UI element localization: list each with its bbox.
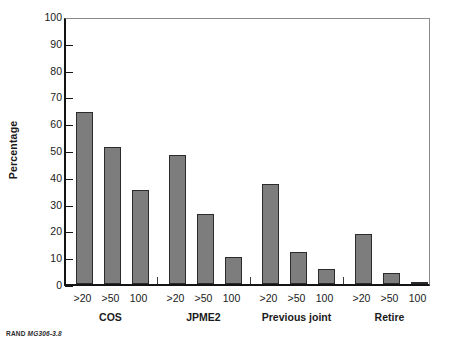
bar-retire-100 bbox=[411, 282, 428, 284]
y-axis-title: Percentage bbox=[2, 0, 24, 300]
y-axis-tick-mark bbox=[65, 72, 73, 73]
group-label-retire: Retire bbox=[330, 311, 450, 323]
x-axis-tick-label: 100 bbox=[395, 292, 441, 304]
y-axis-tick-label: 10 bbox=[50, 252, 64, 264]
y-axis-tick-mark bbox=[65, 232, 73, 233]
bar-previous-joint-gt20 bbox=[262, 184, 279, 285]
bar-cos-100 bbox=[132, 190, 149, 284]
y-axis-tick-label: 50 bbox=[50, 145, 64, 157]
group-separator-tick bbox=[343, 277, 344, 284]
figure-source-note: RAND MG306-3.8 bbox=[6, 330, 62, 337]
bar-jpme2-gt20 bbox=[169, 155, 186, 284]
y-axis-tick-label: 100 bbox=[44, 11, 64, 23]
y-axis-tick-label: 20 bbox=[50, 225, 64, 237]
bar-jpme2-100 bbox=[225, 257, 242, 284]
bar-previous-joint-gt50 bbox=[290, 252, 307, 284]
y-axis-tick-label: 40 bbox=[50, 172, 64, 184]
y-axis-tick-label: 60 bbox=[50, 118, 64, 130]
y-axis-tick-mark bbox=[65, 286, 73, 287]
bars-layer bbox=[68, 19, 429, 284]
y-axis-tick-mark bbox=[65, 45, 73, 46]
bar-chart-figure: Percentage 0102030405060708090100 >20>50… bbox=[0, 0, 452, 346]
y-axis-tick-label: 0 bbox=[56, 279, 64, 291]
y-axis-tick-label: 80 bbox=[50, 65, 64, 77]
y-axis-tick-mark bbox=[65, 259, 73, 260]
group-separator-tick bbox=[157, 277, 158, 284]
plot-area bbox=[64, 18, 430, 286]
bar-retire-gt20 bbox=[355, 234, 372, 284]
y-axis-tick-label: 90 bbox=[50, 38, 64, 50]
y-axis-tick-mark bbox=[65, 125, 73, 126]
y-axis-tick-label: 70 bbox=[50, 91, 64, 103]
group-separator-tick bbox=[250, 277, 251, 284]
y-axis-tick-mark bbox=[65, 179, 73, 180]
y-axis-title-text: Percentage bbox=[7, 121, 19, 180]
y-axis-tick-mark bbox=[65, 152, 73, 153]
source-prefix: RAND bbox=[6, 330, 26, 337]
bar-cos-gt50 bbox=[104, 147, 121, 284]
figure-id: MG306-3.8 bbox=[28, 330, 62, 337]
bar-previous-joint-100 bbox=[318, 269, 335, 284]
bar-cos-gt20 bbox=[76, 112, 93, 284]
y-axis-tick-mark bbox=[65, 206, 73, 207]
y-axis-tick-mark bbox=[65, 98, 73, 99]
bar-retire-gt50 bbox=[383, 273, 400, 284]
y-axis-tick-label: 30 bbox=[50, 199, 64, 211]
bar-jpme2-gt50 bbox=[197, 214, 214, 284]
